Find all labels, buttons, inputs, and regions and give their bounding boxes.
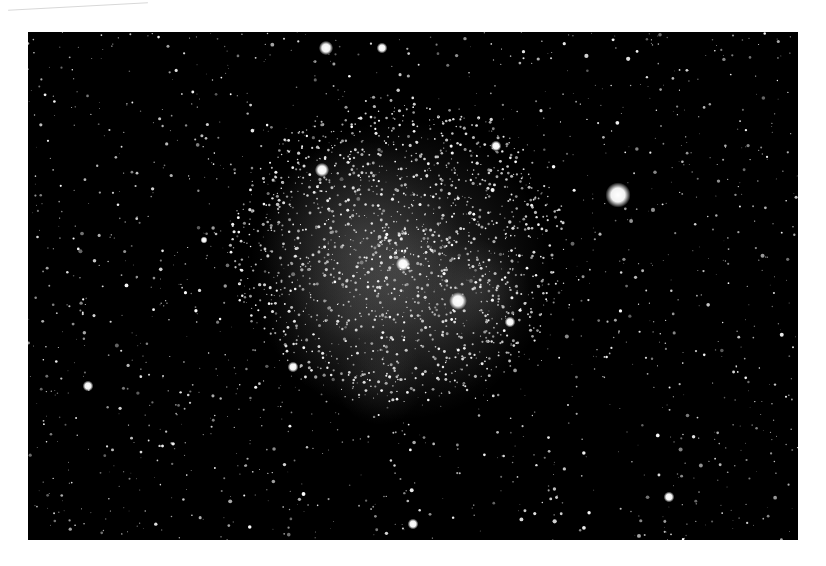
astrophotograph: [28, 32, 798, 540]
star-field-canvas: [28, 32, 798, 540]
scan-artifact-line: [8, 2, 148, 10]
